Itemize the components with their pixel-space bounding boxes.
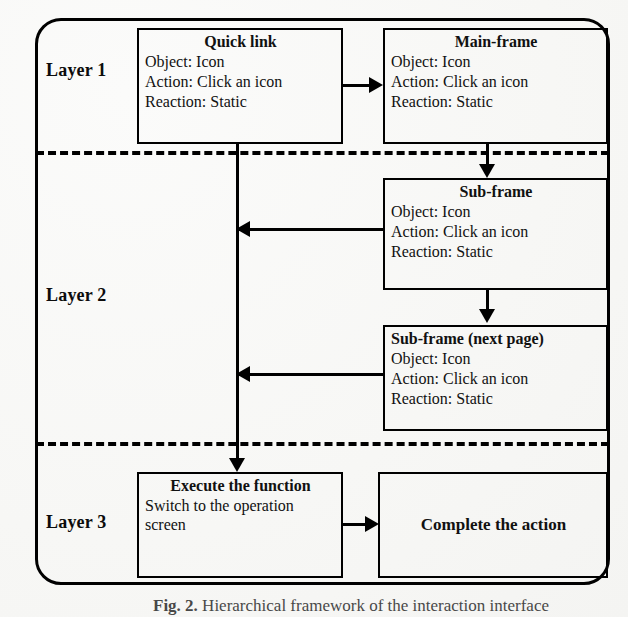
figure-caption-text: Hierarchical framework of the interactio… (202, 596, 549, 615)
arrowhead-right-icon-quick-link-to-main-frame (369, 77, 383, 93)
node-sub-frame-next-page-title: Sub-frame (next page) (391, 329, 601, 349)
node-main-frame-action: Action: Click an icon (391, 72, 601, 92)
node-main-frame-object: Object: Icon (391, 52, 601, 72)
layer-label-3: Layer 3 (46, 512, 107, 533)
arrowhead-left-icon-sub-frame-next-page-to-spine (236, 366, 250, 382)
node-sub-frame-next-page-object: Object: Icon (391, 349, 601, 369)
node-main-frame-title: Main-frame (391, 32, 601, 52)
node-quick-link-object: Object: Icon (145, 52, 336, 72)
node-complete-the-action-title: Complete the action (421, 515, 566, 536)
node-sub-frame-object: Object: Icon (391, 202, 601, 222)
layer-divider-1-2 (36, 151, 609, 155)
node-main-frame: Main-frame Object: Icon Action: Click an… (383, 28, 608, 144)
node-sub-frame-next-page-reaction: Reaction: Static (391, 389, 601, 409)
node-quick-link-reaction: Reaction: Static (145, 92, 336, 112)
node-sub-frame-reaction: Reaction: Static (391, 242, 601, 262)
node-complete-the-action: Complete the action (378, 472, 608, 578)
node-sub-frame-next-page: Sub-frame (next page) Object: Icon Actio… (383, 325, 608, 431)
layer-divider-2-3 (36, 442, 609, 446)
node-execute-the-function-detail: Switch to the operation screen (145, 496, 336, 534)
node-quick-link: Quick link Object: Icon Action: Click an… (137, 28, 343, 144)
node-quick-link-action: Action: Click an icon (145, 72, 336, 92)
node-execute-the-function: Execute the function Switch to the opera… (137, 472, 343, 578)
figure-caption: Fig. 2. Hierarchical framework of the in… (96, 596, 606, 617)
node-sub-frame-action: Action: Click an icon (391, 222, 601, 242)
arrowhead-down-icon-main-frame-to-sub-frame (479, 164, 495, 178)
node-main-frame-reaction: Reaction: Static (391, 92, 601, 112)
connector-sub-frame-to-spine (239, 228, 384, 231)
node-sub-frame-next-page-action: Action: Click an icon (391, 369, 601, 389)
node-sub-frame-title: Sub-frame (391, 182, 601, 202)
node-execute-the-function-title: Execute the function (145, 476, 336, 496)
arrowhead-right-icon-execute-to-complete (365, 516, 379, 532)
layer-label-1: Layer 1 (46, 60, 107, 81)
connector-quick-link-to-main-frame (343, 84, 371, 87)
connector-spine-quick-link-to-execute (236, 144, 239, 462)
arrowhead-down-icon-sub-frame-to-sub-frame-next-page (479, 309, 495, 323)
layer-label-2: Layer 2 (46, 285, 107, 306)
node-sub-frame: Sub-frame Object: Icon Action: Click an … (383, 178, 608, 290)
figure-caption-label: Fig. 2. (153, 596, 198, 615)
arrowhead-down-icon-spine-to-execute (229, 458, 245, 472)
node-quick-link-title: Quick link (145, 32, 336, 52)
connector-sub-frame-next-page-to-spine (239, 373, 384, 376)
hierarchical-framework-diagram: Layer 1 Layer 2 Layer 3 Quick link Objec… (0, 0, 628, 617)
arrowhead-left-icon-sub-frame-to-spine (236, 221, 250, 237)
